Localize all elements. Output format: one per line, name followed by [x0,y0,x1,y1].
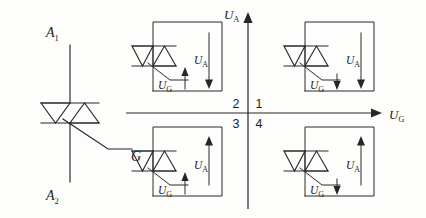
vertical-axis-label: UA [224,7,239,24]
quadrant-1-gate-arrow [333,81,340,90]
quadrant-2-anode-arrow [205,80,213,89]
quadrant-2-circuit [132,22,222,91]
coordinate-axes [126,12,382,209]
quadrant-4-gate-label: UG [310,184,324,199]
quadrant-4-anode-arrow [357,136,365,145]
quadrant-number-3: 3 [233,117,240,131]
horizontal-axis-arrowhead [371,108,382,117]
quadrant-2-gate-label: UG [158,79,172,94]
quadrant-2-gate-arrow [181,67,188,76]
quadrant-3-circuit [132,127,222,196]
terminal-a1-label: A1 [45,25,59,43]
figure-canvas: A1 A2 G UA UG 2 1 3 4 UA UG UA UG UA UG … [0,0,426,218]
quadrant-4-circuit [284,127,374,196]
vertical-axis-arrowhead [243,12,252,23]
horizontal-axis-label: UG [389,107,404,124]
terminal-a2-label: A2 [45,188,59,206]
quadrant-1-anode-label: UA [346,54,360,69]
quadrant-number-1: 1 [256,97,263,111]
quadrant-2-anode-label: UA [194,54,208,69]
quadrant-1-gate-label: UG [310,79,324,94]
quadrant-4-gate-arrow [333,186,340,195]
quadrant-3-anode-label: UA [194,159,208,174]
quadrant-4-anode-label: UA [346,159,360,174]
quadrant-1-circuit [284,22,374,91]
quadrant-3-gate-label: UG [158,184,172,199]
quadrant-number-4: 4 [256,117,263,131]
quadrant-1-anode-arrow [357,80,365,89]
quadrant-3-gate-arrow [181,172,188,181]
triac-quadrant-figure: A1 A2 G UA UG 2 1 3 4 UA UG UA UG UA UG … [0,0,426,218]
terminal-gate-label: G [131,149,141,164]
quadrant-number-2: 2 [233,97,240,111]
quadrant-3-anode-arrow [205,136,213,145]
main-triac-symbol [41,45,132,182]
